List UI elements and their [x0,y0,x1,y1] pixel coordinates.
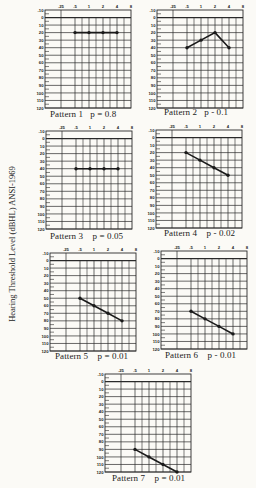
caption-label: Pattern 5 [55,351,88,361]
y-tick-label: 120 [148,226,156,231]
threshold-point [74,167,77,170]
y-tick-label: 110 [38,219,45,224]
y-tick-label: 30 [155,279,160,284]
y-tick-label: 70 [155,309,160,314]
audiogram-panel-4: -1001020304050607080901001101201248.25.5 [144,124,246,230]
x-tick-label: 8 [190,368,193,373]
caption-p-value: p = 0.05 [93,231,124,241]
y-tick-label: 30 [99,402,104,407]
x-tick-label: 2 [162,368,165,373]
y-tick-label: 40 [40,166,45,171]
y-tick-label: 100 [38,212,46,217]
audiogram-svg: -1001020304050607080901001101201248.25.5 [33,4,135,110]
y-tick-label: 100 [42,334,50,339]
x-tick-label: 4 [228,4,231,9]
threshold-point [92,304,95,307]
x-tick-label: 1 [89,125,92,130]
x-tick-label: 1 [93,247,96,252]
y-tick-label: 100 [37,91,45,96]
x-tick-label: 8 [131,125,134,130]
threshold-point [133,448,136,451]
y-tick-label: 110 [97,462,104,467]
audiogram-svg: -1001020304050607080901001101201248.25.5 [144,124,246,230]
y-tick-label: 60 [40,181,45,186]
x-tick-label: 4 [117,125,120,130]
audiogram-svg: -1001020304050607080901001101201248.25.5 [145,4,247,110]
threshold-point [213,31,216,34]
y-axis-label: Hearing Threshold Level (dBHL) ANSI-1969 [7,166,17,322]
threshold-point [231,332,234,335]
caption-p-value: p = 0.8 [90,109,116,119]
audiogram-panel-3: -1001020304050607080901001101201248.25.5 [34,125,136,231]
x-tick-label: .5 [189,245,193,250]
caption-label: Pattern 1 [50,109,83,119]
y-tick-label: 40 [44,288,49,293]
x-tick-label: 4 [116,4,119,9]
y-tick-label: 90 [99,447,104,452]
y-tick-label: -10 [42,251,49,256]
threshold-point [116,167,119,170]
x-tick-label: .5 [184,124,188,129]
threshold-point [212,166,215,169]
y-tick-label: 0 [41,15,44,20]
caption-label: Pattern 7 [112,473,145,483]
x-tick-label: .25 [63,247,69,252]
y-tick-label: 40 [39,45,44,50]
caption-p-value: p - 0.1 [204,107,228,117]
y-tick-label: 110 [37,98,44,103]
y-tick-label: 0 [153,15,156,20]
y-tick-label: 90 [155,324,160,329]
y-tick-label: 0 [101,379,104,384]
x-tick-label: 4 [227,124,230,129]
x-tick-label: .25 [169,124,175,129]
y-tick-label: 60 [39,60,44,65]
y-tick-label: 70 [151,68,156,73]
x-tick-label: 4 [121,247,124,252]
plot-frame [50,253,136,351]
y-tick-label: 70 [44,311,49,316]
x-tick-label: 1 [148,368,151,373]
audiogram-svg: -1001020304050607080901001101201248.25.5 [34,125,136,231]
audiogram-panel-2: -1001020304050607080901001101201248.25.5 [145,4,247,110]
y-tick-label: 110 [42,341,49,346]
y-tick-label: 90 [150,203,155,208]
y-tick-label: 60 [155,301,160,306]
y-tick-label: 50 [150,173,155,178]
y-tick-label: 100 [153,332,161,337]
x-tick-label: 2 [103,125,106,130]
y-tick-label: 90 [151,83,156,88]
threshold-point [78,297,81,300]
y-tick-label: 90 [44,326,49,331]
y-tick-label: 50 [39,53,44,58]
y-tick-label: 20 [151,30,156,35]
y-tick-label: 70 [40,189,45,194]
y-tick-label: 120 [37,106,45,111]
y-tick-label: 40 [99,409,104,414]
y-tick-label: -10 [38,129,45,134]
x-tick-label: .25 [170,4,176,9]
y-tick-label: 10 [151,23,156,28]
y-tick-label: 50 [44,296,49,301]
x-tick-label: .5 [74,125,78,130]
y-tick-label: 80 [39,75,44,80]
y-tick-label: 90 [39,83,44,88]
audiogram-svg: -1001020304050607080901001101201248.25.5 [93,368,195,474]
x-tick-label: 2 [213,124,216,129]
y-tick-label: 40 [151,45,156,50]
y-tick-label: 10 [39,23,44,28]
caption-label: Pattern 2 [164,107,197,117]
caption-label: Pattern 6 [165,350,198,360]
threshold-point [88,167,91,170]
x-tick-label: 2 [102,4,105,9]
panel-caption-2: Pattern 2 p - 0.1 [164,107,228,117]
y-tick-label: 80 [150,195,155,200]
y-tick-label: 70 [150,188,155,193]
threshold-point [161,463,164,466]
threshold-point [226,174,229,177]
y-tick-label: 20 [44,273,49,278]
audiogram-panel-7: -1001020304050607080901001101201248.25.5 [93,368,195,474]
x-tick-label: 8 [130,4,133,9]
y-tick-label: 10 [40,144,45,149]
y-tick-label: 30 [44,281,49,286]
caption-p-value: p = 0.01 [98,351,129,361]
